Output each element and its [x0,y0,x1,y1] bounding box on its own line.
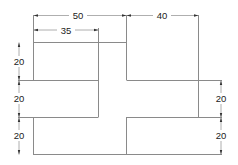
dimension-35: 35 [34,25,99,37]
technical-drawing: 50 35 40 20 20 20 20 [0,0,238,165]
dim-label-40: 40 [157,10,168,21]
dimension-50: 50 [34,10,127,21]
dim-label-left-2: 20 [14,93,25,104]
dim-label-left-1: 20 [14,56,25,67]
dim-label-left-3: 20 [14,130,25,141]
dim-label-50: 50 [73,10,84,21]
outline-shape [18,15,222,155]
dim-label-35: 35 [61,25,72,36]
dimension-left-stack: 20 20 20 [12,43,26,155]
dim-label-right-2: 20 [216,130,227,141]
dim-label-right-1: 20 [216,93,227,104]
dimension-40: 40 [127,10,199,21]
